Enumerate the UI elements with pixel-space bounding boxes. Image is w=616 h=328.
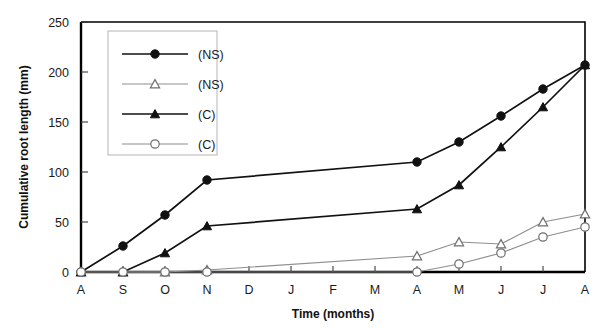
data-point-filled-triangle (160, 249, 169, 257)
x-tick-label: J (540, 283, 546, 297)
data-point-open-circle (497, 249, 505, 257)
series-line (81, 214, 585, 272)
data-point-open-circle (539, 233, 547, 241)
y-tick-label: 150 (48, 116, 69, 130)
data-point-open-triangle (580, 210, 589, 218)
legend-label: (NS) (198, 78, 224, 92)
data-point-open-circle (581, 223, 589, 231)
y-tick-label: 200 (48, 66, 69, 80)
x-tick-label: J (498, 283, 504, 297)
x-axis-ticks: ASONDJFMAMJJA (77, 266, 590, 297)
chart-legend: (NS)(NS)(C)(C) (108, 31, 224, 155)
data-point-filled-circle (161, 211, 169, 219)
data-point-open-circle (77, 268, 85, 276)
x-axis-title: Time (months) (292, 307, 374, 321)
y-tick-label: 100 (48, 166, 69, 180)
x-tick-label: A (77, 283, 86, 297)
x-tick-label: J (288, 283, 294, 297)
data-point-filled-circle (455, 138, 463, 146)
y-tick-label: 0 (62, 266, 69, 280)
x-tick-label: F (329, 283, 337, 297)
x-tick-label: A (581, 283, 590, 297)
x-tick-label: M (370, 283, 380, 297)
data-point-filled-circle (539, 85, 547, 93)
legend-label: (NS) (198, 48, 224, 62)
y-tick-label: 50 (55, 216, 69, 230)
data-point-open-circle (203, 268, 211, 276)
x-tick-label: D (244, 283, 253, 297)
x-tick-label: S (119, 283, 127, 297)
data-point-open-circle (161, 268, 169, 276)
data-point-open-circle (413, 268, 421, 276)
cumulative-root-length-chart: 050100150200250 ASONDJFMAMJJA Cumulative… (0, 0, 616, 328)
series-line (81, 227, 585, 272)
y-tick-label: 250 (48, 16, 69, 30)
x-tick-label: A (413, 283, 422, 297)
data-point-filled-circle (413, 158, 421, 166)
data-point-filled-circle (119, 242, 127, 250)
x-tick-label: N (202, 283, 211, 297)
series-1-open-triangle (76, 210, 589, 276)
x-tick-label: O (160, 283, 170, 297)
y-axis-title: Cumulative root length (mm) (17, 65, 31, 228)
x-tick-label: M (454, 283, 464, 297)
data-point-open-circle (119, 268, 127, 276)
data-point-filled-circle (151, 50, 159, 58)
legend-label: (C) (198, 108, 215, 122)
data-point-filled-circle (497, 112, 505, 120)
data-point-open-circle (151, 140, 159, 148)
data-point-open-circle (455, 260, 463, 268)
data-point-filled-circle (203, 176, 211, 184)
legend-label: (C) (198, 138, 215, 152)
